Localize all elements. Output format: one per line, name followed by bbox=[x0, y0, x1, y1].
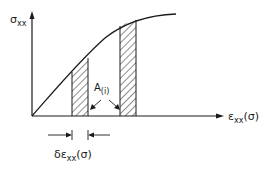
dimension-arrow-right-icon bbox=[66, 133, 72, 138]
hatched-strip-1 bbox=[72, 58, 88, 116]
y-axis-subscript: xx bbox=[17, 19, 26, 28]
x-axis-subscript: xx bbox=[234, 116, 243, 125]
strip-symbol: A bbox=[94, 82, 101, 93]
width-label: δεxx(σ) bbox=[54, 149, 92, 163]
stress-strain-curve bbox=[32, 14, 176, 116]
x-axis-suffix: (σ) bbox=[243, 110, 259, 123]
y-axis-symbol: σ bbox=[10, 13, 17, 26]
y-axis bbox=[30, 11, 35, 116]
x-axis-arrow-icon bbox=[216, 114, 224, 119]
strip-subscript: (i) bbox=[101, 87, 109, 96]
hatched-strip-2 bbox=[120, 20, 136, 116]
strip-label: A(i) bbox=[94, 83, 109, 96]
y-axis-label: σxx bbox=[10, 14, 26, 28]
width-dimension-arrows bbox=[48, 130, 110, 140]
width-prefix: δε bbox=[54, 148, 67, 161]
strip-pointer-arrows bbox=[90, 100, 120, 110]
width-subscript: xx bbox=[67, 154, 76, 163]
y-axis-arrow-icon bbox=[30, 11, 35, 19]
width-suffix: (σ) bbox=[76, 148, 92, 161]
stress-strain-diagram bbox=[0, 0, 275, 170]
x-axis-label: εxx(σ) bbox=[228, 111, 259, 125]
